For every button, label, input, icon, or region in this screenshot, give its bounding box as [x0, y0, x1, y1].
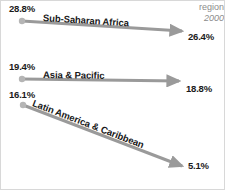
series-label-asia-pacific: Asia & Pacific [43, 69, 105, 81]
start-value-asia-pacific: 19.4% [9, 61, 35, 72]
end-value-sub-saharan-africa: 26.4% [188, 31, 214, 42]
end-value-latin-america-caribbean: 5.1% [188, 160, 209, 171]
arrow-slope-chart: region 2000 28.8% 26.4% Sub-Saharan Afri… [0, 0, 225, 190]
chart-header: region 2000 [199, 2, 224, 24]
arrow-start-dot-latin-america-caribbean [20, 102, 26, 108]
header-year-label: 2000 [199, 13, 224, 24]
arrow-start-dot-sub-saharan-africa [19, 18, 25, 24]
arrow-start-dot-asia-pacific [19, 76, 25, 82]
header-region-label: region [199, 2, 224, 13]
start-value-sub-saharan-africa: 28.8% [9, 3, 35, 14]
end-value-asia-pacific: 18.8% [186, 83, 212, 94]
start-value-latin-america-caribbean: 16.1% [9, 89, 35, 100]
arrow-latin-america-caribbean [23, 105, 182, 166]
